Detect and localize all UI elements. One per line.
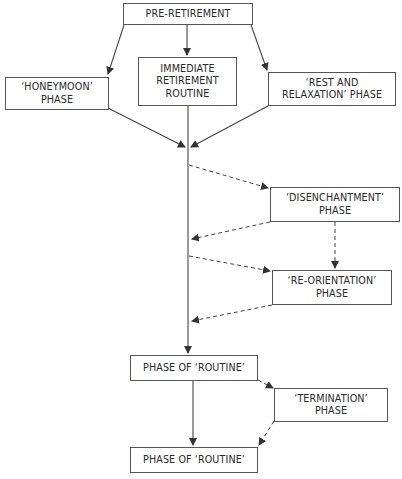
edge-pre-to-rest	[251, 25, 267, 70]
node-label: IMMEDIATE	[156, 63, 219, 76]
node-label: PHASE OF ‘ROUTINE’	[143, 362, 245, 375]
node-label: ‘REST AND	[282, 77, 382, 90]
node-label: PHASE	[21, 94, 93, 107]
edge-honeymoon-to-main	[108, 108, 185, 147]
node-honeymoon-phase: ‘HONEYMOON’ PHASE	[5, 77, 109, 110]
node-label: RELAXATION’ PHASE	[282, 89, 382, 102]
edge-routine1-to-termination	[258, 380, 273, 388]
edge-pre-to-honeymoon	[108, 25, 124, 74]
node-reorientation-phase: ‘RE-ORIENTATION’ PHASE	[272, 270, 392, 305]
node-phase-of-routine-2: PHASE OF ‘ROUTINE’	[130, 447, 258, 473]
node-immediate-retirement-routine: IMMEDIATE RETIREMENT ROUTINE	[138, 57, 237, 106]
edge-termination-to-routine2	[259, 421, 274, 445]
node-label: ‘HONEYMOON’	[21, 81, 93, 94]
node-phase-of-routine-1: PHASE OF ‘ROUTINE’	[130, 355, 258, 381]
node-disenchantment-phase: ‘DISENCHANTMENT’ PHASE	[270, 187, 400, 222]
node-label: PHASE	[288, 288, 377, 301]
node-termination-phase: ‘TERMINATION’ PHASE	[274, 388, 388, 422]
node-pre-retirement: PRE-RETIREMENT	[123, 3, 253, 25]
edge-main-to-reorientation	[189, 256, 270, 271]
node-label: ‘RE-ORIENTATION’	[288, 275, 377, 288]
node-label: ‘TERMINATION’	[294, 393, 368, 406]
node-label: RETIREMENT	[156, 75, 219, 88]
edge-reorientation-to-main	[192, 305, 272, 321]
edge-rest-to-main	[191, 106, 268, 147]
node-label: PHASE OF ‘ROUTINE’	[143, 454, 245, 467]
node-label: PHASE	[286, 205, 384, 218]
edge-main-to-disenchantment	[189, 165, 268, 188]
node-label: ‘DISENCHANTMENT’	[286, 192, 384, 205]
edge-disenchantment-to-main	[192, 222, 270, 239]
node-label: PRE-RETIREMENT	[146, 8, 231, 21]
node-label: PHASE	[294, 405, 368, 418]
node-rest-relaxation-phase: ‘REST AND RELAXATION’ PHASE	[268, 72, 396, 106]
node-label: ROUTINE	[156, 88, 219, 101]
